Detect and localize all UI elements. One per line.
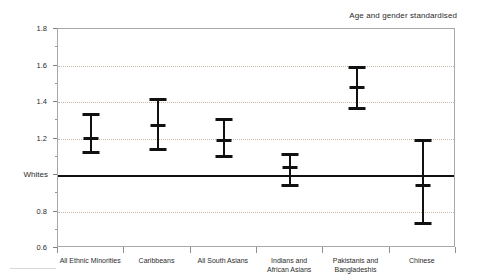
error-bar-cap-lower — [282, 184, 299, 187]
error-bar-point-estimate — [216, 139, 231, 142]
x-tick-mark — [389, 247, 390, 253]
error-bar-cap-upper — [149, 98, 166, 101]
error-bar-stem — [223, 118, 225, 155]
chart-container: Age and gender standardised 0.60.8Whites… — [0, 0, 477, 277]
plot-area — [57, 28, 455, 247]
y-tick-label: 0.8 — [37, 206, 47, 215]
y-tick-label: 1.6 — [37, 60, 47, 69]
error-bar-cap-upper — [348, 66, 365, 69]
y-axis: 0.60.8Whites1.21.41.61.8 — [0, 0, 57, 277]
y-tick-label: 1.4 — [37, 97, 47, 106]
error-bar-stem — [422, 139, 424, 223]
x-category-label: Caribbeans — [123, 256, 189, 265]
x-tick-mark — [123, 247, 124, 253]
error-bar-point-estimate — [150, 124, 165, 127]
error-bar-point-estimate — [415, 184, 430, 187]
y-tick-label: Whites — [24, 170, 48, 179]
error-bar-point-estimate — [283, 166, 298, 169]
x-tick-mark — [190, 247, 191, 253]
gridline — [58, 102, 454, 103]
x-category-label: Chinese — [389, 256, 455, 265]
error-bar-cap-upper — [282, 153, 299, 156]
error-bar-cap-lower — [83, 151, 100, 154]
error-bar-cap-upper — [215, 118, 232, 121]
y-tick-label: 1.2 — [37, 133, 47, 142]
x-category-label: All South Asians — [190, 256, 256, 265]
error-bar-cap-upper — [83, 113, 100, 116]
error-bar-cap-lower — [414, 222, 431, 225]
gridline — [58, 66, 454, 67]
error-bar-point-estimate — [349, 86, 364, 89]
x-tick-mark — [322, 247, 323, 253]
footer-divider — [10, 268, 56, 269]
gridline — [58, 139, 454, 140]
x-tick-mark — [57, 247, 58, 253]
reference-line-whites — [58, 175, 454, 177]
error-bar-cap-lower — [348, 107, 365, 110]
y-tick-label: 1.8 — [37, 24, 47, 33]
error-bar-cap-lower — [215, 155, 232, 158]
x-tick-mark — [455, 247, 456, 253]
x-category-label: All Ethnic Minorities — [57, 256, 123, 265]
error-bar-stem — [90, 113, 92, 151]
chart-annotation: Age and gender standardised — [349, 11, 457, 20]
x-category-label: Indians and African Asians — [256, 256, 322, 274]
error-bar-cap-upper — [414, 139, 431, 142]
error-bar-point-estimate — [84, 137, 99, 140]
error-bar-cap-lower — [149, 148, 166, 151]
gridline — [58, 212, 454, 213]
y-tick-label: 0.6 — [37, 243, 47, 252]
x-category-label: Pakistanis and Bangladeshis — [322, 256, 388, 274]
x-axis: All Ethnic MinoritiesCaribbeansAll South… — [57, 247, 455, 277]
x-tick-mark — [256, 247, 257, 253]
